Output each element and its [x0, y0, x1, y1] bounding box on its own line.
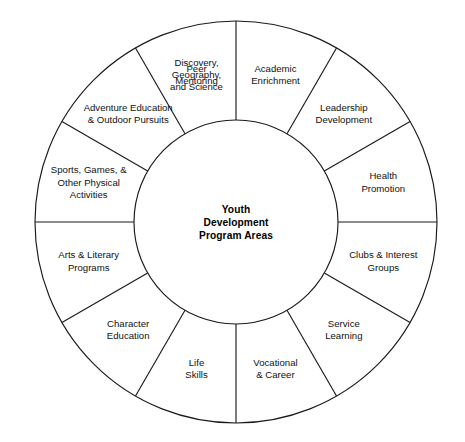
sector-label-adventure-education: Adventure Education& Outdoor Pursuits [84, 102, 173, 125]
sector-label-line: Learning [325, 329, 362, 340]
sector-label-line: Arts & Literary [58, 249, 119, 260]
sector-label-line: Mentoring [175, 74, 218, 85]
sector-label-character-education: CharacterEducation [107, 317, 150, 340]
sector-label-line: Peer [186, 62, 207, 73]
sector-label-line: Vocational [253, 357, 297, 368]
sector-label-leadership-development: LeadershipDevelopment [316, 102, 373, 125]
sector-label-service-learning: ServiceLearning [325, 317, 362, 340]
sector-label-line: Enrichment [251, 74, 300, 85]
sector-label-line: Leadership [320, 102, 367, 113]
center-hub-label-line: Program Areas [199, 230, 273, 241]
sector-label-line: Other Physical [58, 176, 120, 187]
sector-label-line: Groups [368, 261, 400, 272]
sector-label-line: Adventure Education [84, 102, 173, 113]
sector-label-line: Academic [254, 62, 296, 73]
sector-label-line: Activities [70, 188, 108, 199]
sector-label-line: Development [316, 114, 373, 125]
sector-label-line: Skills [185, 369, 208, 380]
sector-label-line: Programs [68, 261, 110, 272]
sector-label-line: Service [328, 317, 360, 328]
sector-label-line: Life [189, 357, 204, 368]
sector-label-line: Sports, Games, & [51, 164, 127, 175]
center-hub-label-line: Youth [222, 204, 251, 215]
sector-label-line: & Career [256, 369, 295, 380]
youth-development-wheel-diagram: AcademicEnrichmentLeadershipDevelopmentH… [0, 0, 465, 442]
sector-label-line: Health [369, 170, 397, 181]
center-hub-label-line: Development [203, 217, 269, 228]
sector-label-vocational-career: Vocational& Career [253, 357, 297, 380]
sector-label-line: Promotion [361, 182, 405, 193]
sector-label-line: & Outdoor Pursuits [88, 114, 169, 125]
sector-label-line: Character [107, 317, 150, 328]
sector-label-academic-enrichment: AcademicEnrichment [251, 62, 300, 85]
sector-label-line: Clubs & Interest [349, 249, 418, 260]
sector-label-line: Education [107, 329, 150, 340]
wheel-svg: AcademicEnrichmentLeadershipDevelopmentH… [0, 0, 465, 442]
